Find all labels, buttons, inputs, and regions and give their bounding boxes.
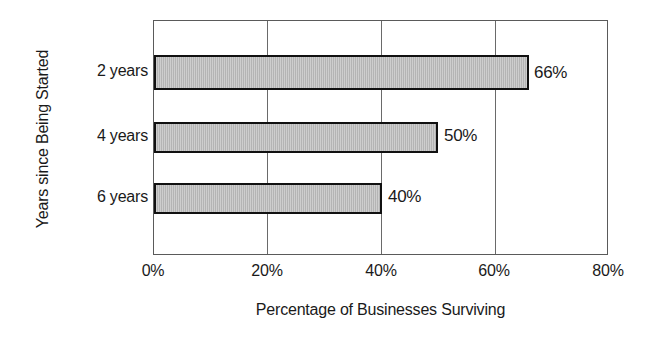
x-tick-label-1: 20% xyxy=(232,261,302,281)
y-axis-title: Years since Being Started xyxy=(32,19,54,259)
plot-area xyxy=(153,20,608,255)
bar-value-label-0: 66% xyxy=(534,63,567,83)
bar-2 xyxy=(154,183,382,214)
bar-value-label-2: 40% xyxy=(388,187,421,207)
bar-chart: Years since Being Started 2 years 4 year… xyxy=(0,0,663,345)
x-axis-title: Percentage of Businesses Surviving xyxy=(153,300,608,320)
bar-0 xyxy=(154,55,529,90)
bar-1 xyxy=(154,122,438,153)
x-tick-label-4: 80% xyxy=(573,261,643,281)
y-tick-label-1: 4 years xyxy=(52,127,148,145)
bar-value-label-1: 50% xyxy=(444,126,477,146)
y-tick-label-0: 2 years xyxy=(52,62,148,80)
x-tick-label-0: 0% xyxy=(118,261,188,281)
x-tick-label-3: 60% xyxy=(459,261,529,281)
y-tick-label-2: 6 years xyxy=(52,188,148,206)
x-tick-label-2: 40% xyxy=(346,261,416,281)
